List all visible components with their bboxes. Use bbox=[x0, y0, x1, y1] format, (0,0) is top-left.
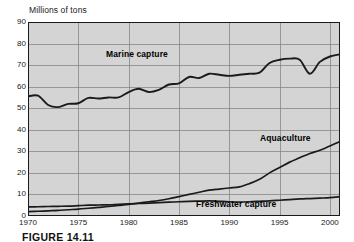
y-tick-label: 70 bbox=[2, 61, 26, 69]
y-tick-label: 90 bbox=[2, 18, 26, 26]
x-tick-label: 1985 bbox=[170, 219, 188, 227]
x-tick-label: 1970 bbox=[19, 219, 37, 227]
y-tick-label: 30 bbox=[2, 147, 26, 155]
y-tick-label: 80 bbox=[2, 40, 26, 48]
x-tick-label: 1975 bbox=[69, 219, 87, 227]
plot-area: 0102030405060708090 19701975198019851990… bbox=[28, 22, 340, 216]
series-label-freshwater: Freshwater capture bbox=[196, 199, 276, 209]
x-tick-label: 1980 bbox=[120, 219, 138, 227]
x-tick-label: 1990 bbox=[220, 219, 238, 227]
x-tick-label: 2000 bbox=[321, 219, 339, 227]
y-tick-label: 10 bbox=[2, 190, 26, 198]
y-tick-label: 60 bbox=[2, 83, 26, 91]
x-tick-label: 1995 bbox=[271, 219, 289, 227]
series-label-aquaculture: Aquaculture bbox=[260, 133, 311, 143]
y-tick-label: 50 bbox=[2, 104, 26, 112]
line-chart-svg bbox=[28, 22, 340, 216]
y-axis-title: Millions of tons bbox=[29, 5, 87, 15]
series-label-marine: Marine capture bbox=[106, 49, 168, 59]
figure-container: Millions of tons 0102030405060708090 197… bbox=[0, 0, 354, 242]
plot-background bbox=[28, 22, 340, 216]
y-tick-label: 40 bbox=[2, 126, 26, 134]
y-tick-label: 20 bbox=[2, 169, 26, 177]
figure-caption: FIGURE 14.11 bbox=[22, 231, 94, 242]
